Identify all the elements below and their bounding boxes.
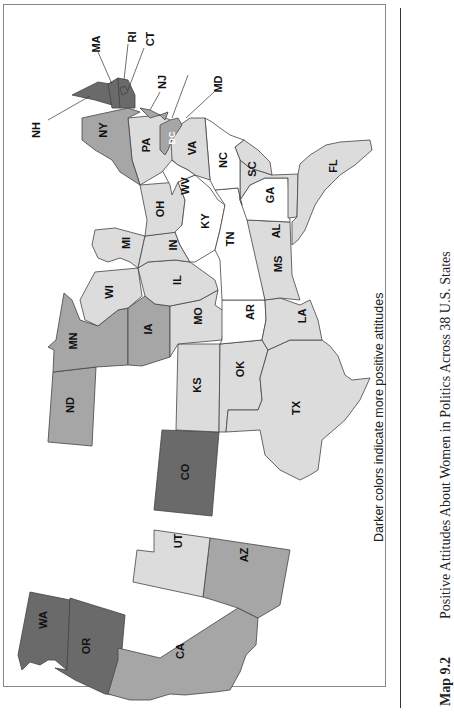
label-or: OR [80, 638, 92, 655]
figure-number: Map 9.2 [438, 657, 453, 706]
label-wv: WV [179, 176, 191, 194]
leader-line-md [186, 92, 214, 118]
label-ny: NY [97, 122, 109, 138]
label-tx: TX [290, 400, 302, 415]
label-ri: RI [126, 32, 138, 43]
label-mn: MN [67, 332, 79, 349]
label-ia: IA [142, 323, 154, 334]
label-co: CO [179, 463, 191, 480]
label-ma: MA [90, 35, 102, 52]
label-nd: ND [64, 397, 76, 413]
label-wa: WA [37, 611, 49, 629]
label-fl: FL [327, 159, 339, 173]
caption-divider [400, 8, 401, 708]
leader-line-nj [150, 92, 160, 110]
label-ga: GA [264, 187, 276, 204]
label-ca: CA [174, 643, 186, 659]
label-mi: MI [120, 237, 132, 249]
label-md: MD [212, 75, 224, 92]
label-ms: MS [272, 256, 284, 273]
label-tn: TN [224, 232, 236, 247]
label-ok: OK [234, 361, 246, 378]
label-ar: AR [244, 304, 256, 320]
label-sc: SC [246, 161, 258, 176]
legend-note: Darker colors indicate more positive att… [372, 293, 386, 542]
label-al: AL [270, 223, 282, 238]
label-oh: OH [154, 201, 166, 218]
label-ky: KY [199, 213, 211, 229]
label-mo: MO [192, 307, 204, 325]
state-ar [220, 300, 266, 344]
label-pa: PA [140, 138, 152, 153]
state-fl [292, 140, 372, 245]
label-va: VA [186, 141, 198, 156]
label-wi: WI [103, 285, 115, 298]
label-az: AZ [238, 547, 250, 562]
label-in: IN [167, 239, 179, 250]
leader-line-ma [98, 52, 112, 84]
label-ks: KS [191, 377, 203, 392]
state-wa [18, 592, 70, 670]
label-ut: UT [172, 533, 184, 548]
label-il: IL [171, 275, 183, 285]
leader-line-unlabeled [172, 75, 188, 118]
state-nh [72, 82, 112, 105]
leader-line-ct [128, 48, 144, 90]
label-ct: CT [144, 31, 156, 46]
leader-line-ri [124, 44, 128, 80]
label-nc: NC [217, 152, 229, 168]
figure-title: Positive Attitudes About Women in Politi… [438, 251, 453, 619]
label-dc: DC [167, 131, 177, 144]
label-la: LA [296, 309, 308, 324]
figure-caption: Map 9.2Positive Attitudes About Women in… [438, 251, 454, 706]
state-mi [92, 228, 145, 268]
leader-line-nh [48, 96, 90, 120]
label-nj: NJ [156, 75, 168, 89]
label-nh: NH [30, 122, 42, 138]
